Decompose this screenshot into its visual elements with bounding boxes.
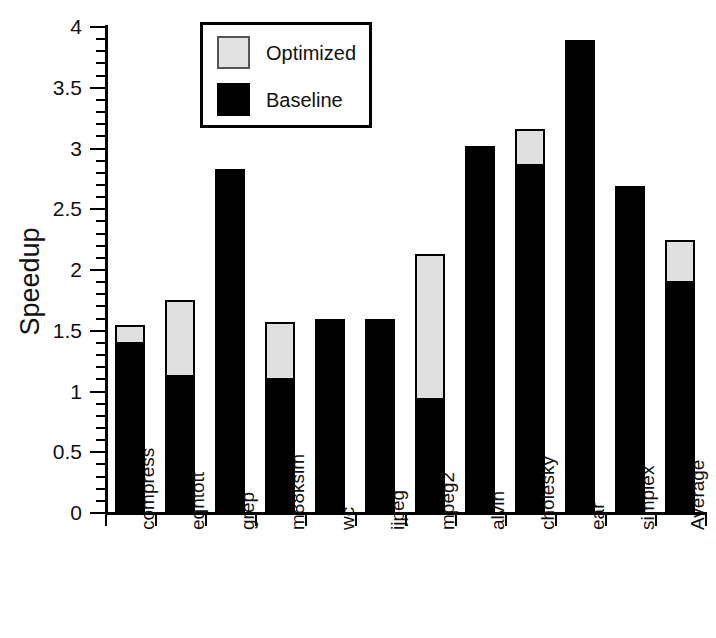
y-axis-tick-minor bbox=[96, 50, 105, 52]
y-axis-tick-minor bbox=[96, 476, 105, 478]
y-axis-tick-minor bbox=[96, 378, 105, 380]
x-axis-label-ear: ear bbox=[588, 390, 607, 530]
chart-legend: Optimized Baseline bbox=[200, 22, 372, 128]
y-axis-tick-minor bbox=[96, 463, 105, 465]
y-axis-tick-label: 1 bbox=[22, 381, 82, 402]
y-axis-tick-minor bbox=[96, 257, 105, 259]
y-axis-tick-minor bbox=[96, 99, 105, 101]
y-axis-tick-major bbox=[90, 269, 105, 271]
y-axis-tick-label: 2.5 bbox=[22, 198, 82, 219]
y-axis-tick-major bbox=[90, 451, 105, 453]
x-axis-label-wc: wc bbox=[338, 390, 357, 530]
legend-item-optimized: Optimized bbox=[217, 36, 356, 69]
y-axis-tick-minor bbox=[96, 62, 105, 64]
y-axis-tick-minor bbox=[96, 403, 105, 405]
y-axis-line bbox=[105, 25, 108, 515]
y-axis-tick-minor bbox=[96, 354, 105, 356]
legend-item-baseline: Baseline bbox=[217, 83, 343, 116]
y-axis-tick-minor bbox=[96, 427, 105, 429]
y-axis-tick-minor bbox=[96, 305, 105, 307]
y-axis-tick-minor bbox=[96, 281, 105, 283]
x-axis-label-ijpeg: ijpeg bbox=[388, 390, 407, 530]
y-axis-tick-minor bbox=[96, 500, 105, 502]
y-axis-tick-label: 0.5 bbox=[22, 441, 82, 462]
y-axis-tick-minor bbox=[96, 196, 105, 198]
y-axis-tick-minor bbox=[96, 123, 105, 125]
x-axis-label-compress: compress bbox=[138, 390, 157, 530]
x-axis-label-mpeg2: mpeg2 bbox=[438, 390, 457, 530]
y-axis-tick-minor bbox=[96, 342, 105, 344]
y-axis-tick-major bbox=[90, 26, 105, 28]
y-axis-tick-minor bbox=[96, 488, 105, 490]
y-axis-tick-minor bbox=[96, 293, 105, 295]
y-axis-tick-minor bbox=[96, 415, 105, 417]
legend-label-optimized: Optimized bbox=[266, 43, 356, 63]
y-axis-tick-minor bbox=[96, 160, 105, 162]
y-axis-tick-minor bbox=[96, 75, 105, 77]
x-axis-label-alvin: alvin bbox=[488, 390, 507, 530]
y-axis-tick-minor bbox=[96, 184, 105, 186]
y-axis-tick-major bbox=[90, 148, 105, 150]
x-axis-label-cholesky: cholesky bbox=[538, 390, 557, 530]
legend-swatch-optimized-icon bbox=[217, 36, 250, 69]
x-axis-label-simplex: simplex bbox=[638, 390, 657, 530]
x-axis-label-eqntott: eqntott bbox=[188, 390, 207, 530]
y-axis-tick-minor bbox=[96, 135, 105, 137]
y-axis-tick-label: 2 bbox=[22, 259, 82, 280]
y-axis-tick-major bbox=[90, 391, 105, 393]
x-axis-label-grep: grep bbox=[238, 390, 257, 530]
y-axis-tick-label: 3 bbox=[22, 138, 82, 159]
y-axis-tick-minor bbox=[96, 38, 105, 40]
legend-swatch-baseline-icon bbox=[217, 83, 250, 116]
speedup-bar-chart: Speedup 00.511.522.533.54 compresseqntot… bbox=[0, 0, 716, 638]
y-axis-tick-major bbox=[90, 330, 105, 332]
y-axis-tick-major bbox=[90, 208, 105, 210]
y-axis-tick-minor bbox=[96, 220, 105, 222]
x-axis-label-average: Average bbox=[688, 390, 707, 530]
y-axis-tick-major bbox=[90, 512, 105, 514]
y-axis-tick-minor bbox=[96, 439, 105, 441]
y-axis-tick-label: 0 bbox=[22, 502, 82, 523]
y-axis-tick-label: 3.5 bbox=[22, 77, 82, 98]
y-axis-tick-minor bbox=[96, 111, 105, 113]
x-axis-label-m88ksim: m88ksim bbox=[288, 390, 307, 530]
x-axis-tick bbox=[105, 512, 107, 526]
y-axis-tick-minor bbox=[96, 172, 105, 174]
y-axis-tick-minor bbox=[96, 366, 105, 368]
y-axis-tick-minor bbox=[96, 318, 105, 320]
legend-label-baseline: Baseline bbox=[266, 90, 343, 110]
y-axis-tick-minor bbox=[96, 233, 105, 235]
y-axis-tick-minor bbox=[96, 245, 105, 247]
y-axis-tick-major bbox=[90, 87, 105, 89]
y-axis-tick-label: 4 bbox=[22, 16, 82, 37]
y-axis-tick-label: 1.5 bbox=[22, 320, 82, 341]
